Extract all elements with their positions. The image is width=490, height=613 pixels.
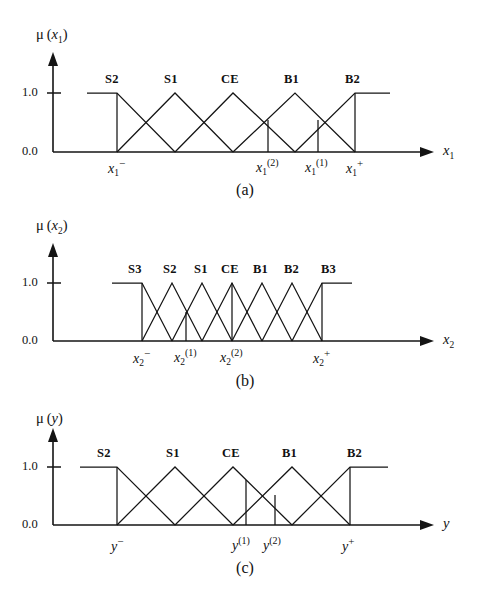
mark-sup-a0: − (119, 157, 125, 169)
mark-label-y-minus: y− (111, 536, 123, 557)
x-axis-name-a: x1 (443, 143, 454, 161)
mark-sup-c2: (2) (269, 535, 281, 546)
mark-label-y-1: y(1) (232, 536, 250, 556)
x-axis-arrow-b (420, 336, 434, 346)
y-axis-arrow-c (48, 428, 58, 442)
membership-curve-b1-a (233, 93, 355, 152)
membership-curve-s1-a (117, 93, 233, 152)
mark-label-y-2: y(2) (263, 536, 281, 556)
x-axis-arrow-c (420, 520, 434, 530)
mu-sub-a: 1 (58, 35, 63, 45)
y-axis-label-c: μ (y) (36, 411, 63, 429)
mark-label-x1-minus: x1− (108, 158, 125, 179)
mark-sub-a3: 1 (352, 168, 357, 178)
set-label-s1-b: S1 (194, 263, 208, 276)
membership-curve-ce-a (175, 93, 295, 152)
x-axis-arrow-a (420, 147, 434, 157)
membership-curve-s2-a (87, 93, 175, 152)
y-tick-label-high-a: 1.0 (22, 86, 38, 99)
mark-label-x2-plus: x2+ (313, 348, 330, 369)
mark-sup-a2: (1) (316, 157, 328, 168)
mark-sup-b2: (2) (231, 347, 243, 358)
mark-label-x1-plus: x1+ (346, 158, 363, 179)
mark-label-x2-1: x2(1) (174, 348, 197, 368)
mark-label-x1-1: x1(1) (305, 158, 328, 178)
mu-glyph-c: μ (36, 410, 44, 426)
y-tick-label-low-a: 0.0 (22, 145, 38, 158)
set-label-b2-c: B2 (347, 447, 362, 460)
set-label-b2-a: B2 (345, 73, 360, 86)
panel-caption-a: (a) (0, 182, 490, 198)
membership-curve-b2-b (262, 283, 322, 341)
panel-caption-c: (c) (0, 560, 490, 576)
set-label-s2-b: S2 (163, 263, 177, 276)
mark-label-x1-2: x1(2) (256, 158, 279, 178)
x-axis-var-c: y (443, 515, 449, 531)
membership-curve-b2-a (295, 93, 390, 152)
mark-sub-a0: 1 (114, 168, 119, 178)
y-tick-label-low-b: 0.0 (22, 334, 38, 347)
mark-label-x2-minus: x2− (133, 348, 150, 369)
mu-glyph-a: μ (36, 26, 44, 42)
mark-sup-a1: (2) (267, 157, 279, 168)
y-axis-arrow-b (48, 243, 58, 257)
mu-sub-b: 2 (58, 226, 63, 236)
mark-label-x2-2: x2(2) (220, 348, 243, 368)
mark-sup-c0: − (117, 535, 123, 547)
mark-sub-b2: 2 (226, 357, 231, 367)
mu-var-c: y (52, 410, 58, 426)
mark-sub-a1: 1 (262, 167, 267, 177)
fuzzy-membership-figure: μ (x1) 1.0 0.0 S2 S1 CE B1 B2 x1 x1− x1(… (0, 0, 490, 613)
set-label-ce-b: CE (221, 263, 239, 276)
mark-sup-b0: − (144, 347, 150, 359)
set-label-s3-b: S3 (128, 263, 142, 276)
y-tick-label-high-b: 1.0 (22, 276, 38, 289)
membership-curve-b1-c (233, 467, 350, 525)
set-label-s2-c: S2 (97, 447, 111, 460)
x-axis-name-c: y (443, 516, 449, 534)
mu-glyph-b: μ (36, 217, 44, 233)
y-axis-label-b: μ (x2) (36, 218, 68, 236)
y-tick-label-low-c: 0.0 (22, 518, 38, 531)
panel-b: μ (x2) 1.0 0.0 S3 S2 S1 CE B1 B2 B3 x2 x… (0, 205, 490, 405)
membership-curve-s2-c (80, 467, 175, 525)
set-label-b1-b: B1 (253, 263, 268, 276)
x-axis-sub-a: 1 (449, 151, 454, 161)
y-axis-label-a: μ (x1) (36, 27, 68, 45)
panel-c-plot (0, 405, 490, 613)
panel-caption-b: (b) (0, 373, 490, 389)
mark-sub-a2: 1 (311, 167, 316, 177)
membership-curve-s1-c (117, 467, 233, 525)
mark-label-y-plus: y+ (342, 536, 354, 557)
membership-curve-b1-b (232, 283, 292, 341)
set-label-b3-b: B3 (321, 263, 336, 276)
set-label-s2-a: S2 (105, 73, 119, 86)
x-axis-sub-b: 2 (449, 340, 454, 350)
panel-a-plot (0, 0, 490, 205)
panel-c: μ (y) 1.0 0.0 S2 S1 CE B1 B2 y y− y(1) y… (0, 405, 490, 613)
set-label-ce-c: CE (222, 447, 240, 460)
panel-a: μ (x1) 1.0 0.0 S2 S1 CE B1 B2 x1 x1− x1(… (0, 0, 490, 205)
mark-sup-c3: + (348, 535, 354, 547)
mark-sub-b0: 2 (139, 358, 144, 368)
mark-sub-b3: 2 (319, 358, 324, 368)
x-axis-name-b: x2 (443, 332, 454, 350)
mark-sup-b1: (1) (185, 347, 197, 358)
set-label-b2-b: B2 (284, 263, 299, 276)
mark-sup-b3: + (324, 347, 330, 359)
set-label-b1-c: B1 (282, 447, 297, 460)
y-tick-label-high-c: 1.0 (22, 460, 38, 473)
membership-curve-s1-b (172, 283, 232, 341)
set-label-s1-a: S1 (164, 73, 178, 86)
y-axis-arrow-a (48, 52, 58, 66)
membership-curve-b2-c (292, 467, 388, 525)
set-label-s1-c: S1 (166, 447, 180, 460)
mark-sup-c1: (1) (238, 535, 250, 546)
mark-sub-b1: 2 (180, 357, 185, 367)
set-label-ce-a: CE (221, 73, 239, 86)
set-label-b1-a: B1 (284, 73, 299, 86)
mark-sup-a3: + (357, 157, 363, 169)
membership-curve-s2-b (142, 283, 202, 341)
